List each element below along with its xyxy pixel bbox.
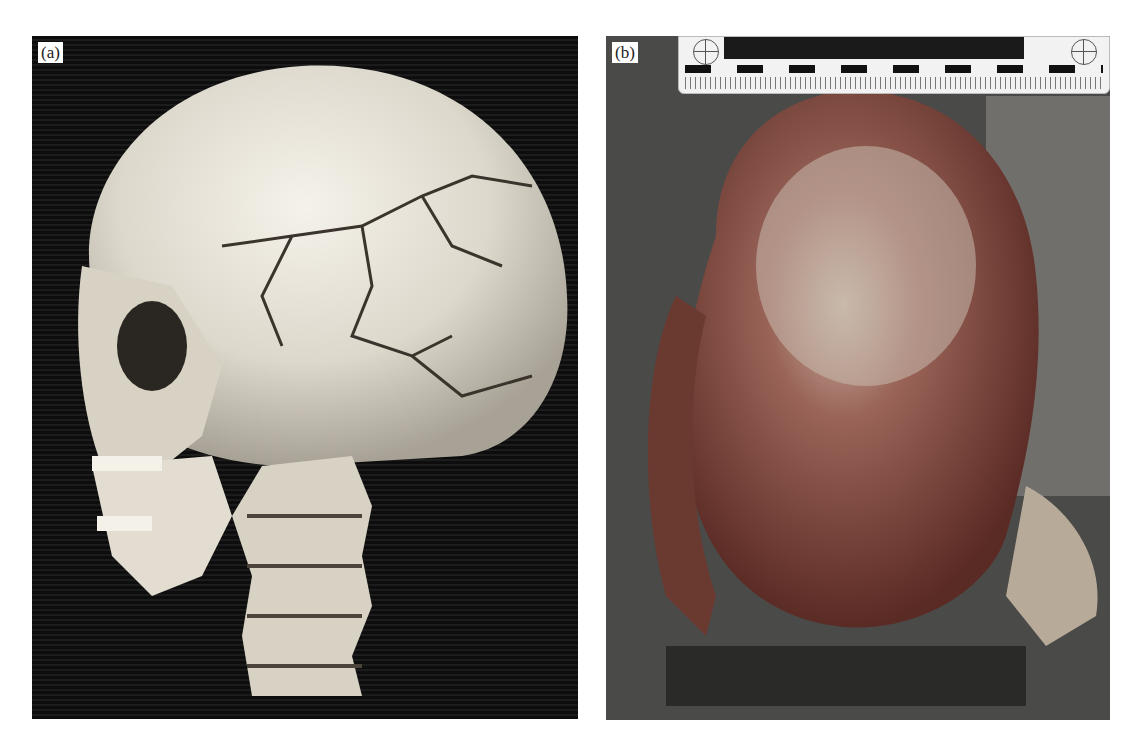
ruler-target-icon (693, 39, 719, 65)
skull-autopsy-image (606, 36, 1110, 720)
panel-label-a: (a) (38, 42, 63, 63)
skull-ct-image (32, 36, 578, 719)
forensic-scale-ruler (678, 36, 1110, 94)
panel-b-autopsy-photo: (b) (606, 36, 1110, 720)
ruler-target-icon (1071, 39, 1097, 65)
panel-a-ct-rendering: (a) (32, 36, 578, 719)
panel-label-b: (b) (612, 42, 638, 63)
